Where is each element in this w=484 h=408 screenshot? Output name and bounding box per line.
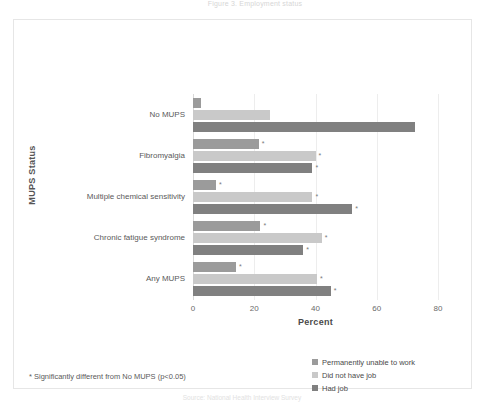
legend-label: Permanently unable to work	[322, 358, 415, 367]
significance-star: *	[219, 181, 222, 189]
legend-label: Did not have job	[322, 371, 376, 380]
bar	[193, 163, 312, 173]
y-category-label: Chronic fatigue syndrome	[94, 233, 185, 242]
bar-group	[193, 98, 438, 132]
y-category-label: No MUPS	[149, 110, 185, 119]
x-tick-label: 80	[434, 304, 443, 313]
x-tick-label: 20	[250, 304, 259, 313]
figure-page: Figure 3. Employment status MUPS Status …	[0, 0, 484, 408]
legend-label: Had job	[322, 384, 348, 393]
y-category-label: Fibromyalgia	[139, 151, 185, 160]
x-tick-label: 40	[311, 304, 320, 313]
bar	[193, 110, 270, 120]
significance-star: *	[334, 287, 337, 295]
significance-star: *	[315, 164, 318, 172]
significance-star: *	[262, 140, 265, 148]
significance-star: *	[325, 234, 328, 242]
bar	[193, 122, 415, 132]
bar	[193, 262, 236, 272]
figure-title: Figure 3. Employment status	[120, 0, 390, 12]
significance-star: *	[239, 263, 242, 271]
significance-star: *	[319, 152, 322, 160]
figure-caption: Source: National Health Interview Survey	[8, 394, 476, 408]
legend-item[interactable]: Did not have job	[312, 369, 482, 381]
gridline	[438, 94, 439, 300]
significance-star: *	[263, 222, 266, 230]
bar	[193, 204, 352, 214]
legend-swatch-icon	[312, 359, 318, 365]
bar	[193, 139, 259, 149]
bar	[193, 286, 331, 296]
plot-area: ************	[193, 94, 438, 300]
bar	[193, 221, 260, 231]
significance-star: *	[355, 205, 358, 213]
x-axis-title: Percent	[193, 317, 438, 327]
bar	[193, 151, 316, 161]
chart-legend: Permanently unable to workDid not have j…	[312, 356, 482, 395]
bar	[193, 98, 201, 108]
significance-footnote: * Significantly different from No MUPS (…	[29, 372, 186, 381]
significance-star: *	[315, 193, 318, 201]
significance-star: *	[320, 275, 323, 283]
legend-item[interactable]: Permanently unable to work	[312, 356, 482, 368]
legend-swatch-icon	[312, 372, 318, 378]
bar	[193, 274, 317, 284]
bar-group: ***	[193, 221, 438, 255]
x-tick-label: 60	[372, 304, 381, 313]
chart-frame: MUPS Status No MUPSFibromyalgiaMultiple …	[13, 19, 472, 389]
y-axis-category-labels: No MUPSFibromyalgiaMultiple chemical sen…	[14, 94, 193, 300]
bar-group: ***	[193, 180, 438, 214]
y-category-label: Multiple chemical sensitivity	[87, 192, 185, 201]
x-axis-tick-labels: 020406080	[193, 304, 438, 318]
x-tick-label: 0	[191, 304, 195, 313]
bar-group: ***	[193, 262, 438, 296]
bar	[193, 192, 312, 202]
bar	[193, 233, 322, 243]
legend-item[interactable]: Had job	[312, 382, 482, 394]
y-category-label: Any MUPS	[146, 274, 185, 283]
significance-star: *	[306, 246, 309, 254]
bar-groups: ************	[193, 94, 438, 300]
bar-group: ***	[193, 139, 438, 173]
bar	[193, 180, 216, 190]
legend-swatch-icon	[312, 385, 318, 391]
bar	[193, 245, 303, 255]
